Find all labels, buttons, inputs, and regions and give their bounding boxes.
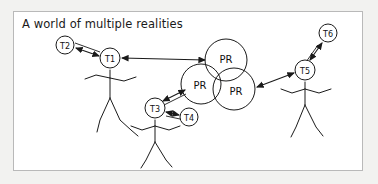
link-t3-t4 [166,112,179,115]
node-t6-label: T6 [322,30,333,39]
figure-center-arm-right [155,126,180,130]
figure-left-arm-right [110,77,136,81]
node-t1-label: T1 [104,55,115,64]
node-t4-label: T4 [183,114,194,123]
link-t2-t1 [76,48,99,56]
reality-circle-top-label: PR [220,54,233,65]
link-t3-pr-left [163,90,185,101]
diagram-figure: A world of multiple realities [0,0,378,184]
figure-left-leg-left [97,98,110,132]
figure-left-leg-right [110,98,138,136]
link-t3-pr-left-return [164,94,186,105]
figure-right-arm-right [305,89,331,93]
stick-figure-right [281,82,331,137]
stick-figure-center [131,120,180,168]
link-t3-t4-return [166,116,180,119]
stick-figure-left [85,70,138,136]
figure-center-leg-right [155,142,172,167]
figure-center-arm-left [131,126,155,130]
figure-right-leg-right [305,105,323,136]
figure-right-arm-left [281,89,305,93]
link-t2-t1-b [75,43,100,52]
figure-center-leg-left [141,142,155,168]
node-t5-label: T5 [299,67,310,76]
node-t2-label: T2 [59,42,70,51]
link-t1-pr-top [122,58,205,60]
figure-left-arm-left [85,75,110,79]
node-t3-label: T3 [149,105,160,114]
diagram-canvas: PR PR PR T2 T1 T3 T4 [0,0,378,184]
figure-right-leg-left [291,105,305,137]
reality-circle-left-label: PR [194,80,207,91]
link-t5-pr-right [257,73,294,87]
link-t5-t6-return [306,45,318,62]
reality-circle-right-label: PR [230,86,243,97]
link-t5-t6 [310,43,322,60]
reality-circle-group [181,39,255,110]
